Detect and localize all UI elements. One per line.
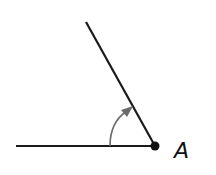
vertex-point	[151, 142, 160, 151]
terminal-ray	[86, 22, 155, 146]
vertex-label: A	[174, 138, 189, 163]
rotation-arc-icon	[110, 111, 127, 146]
arrowhead-icon	[121, 106, 133, 117]
angle-diagram: A	[0, 0, 216, 175]
